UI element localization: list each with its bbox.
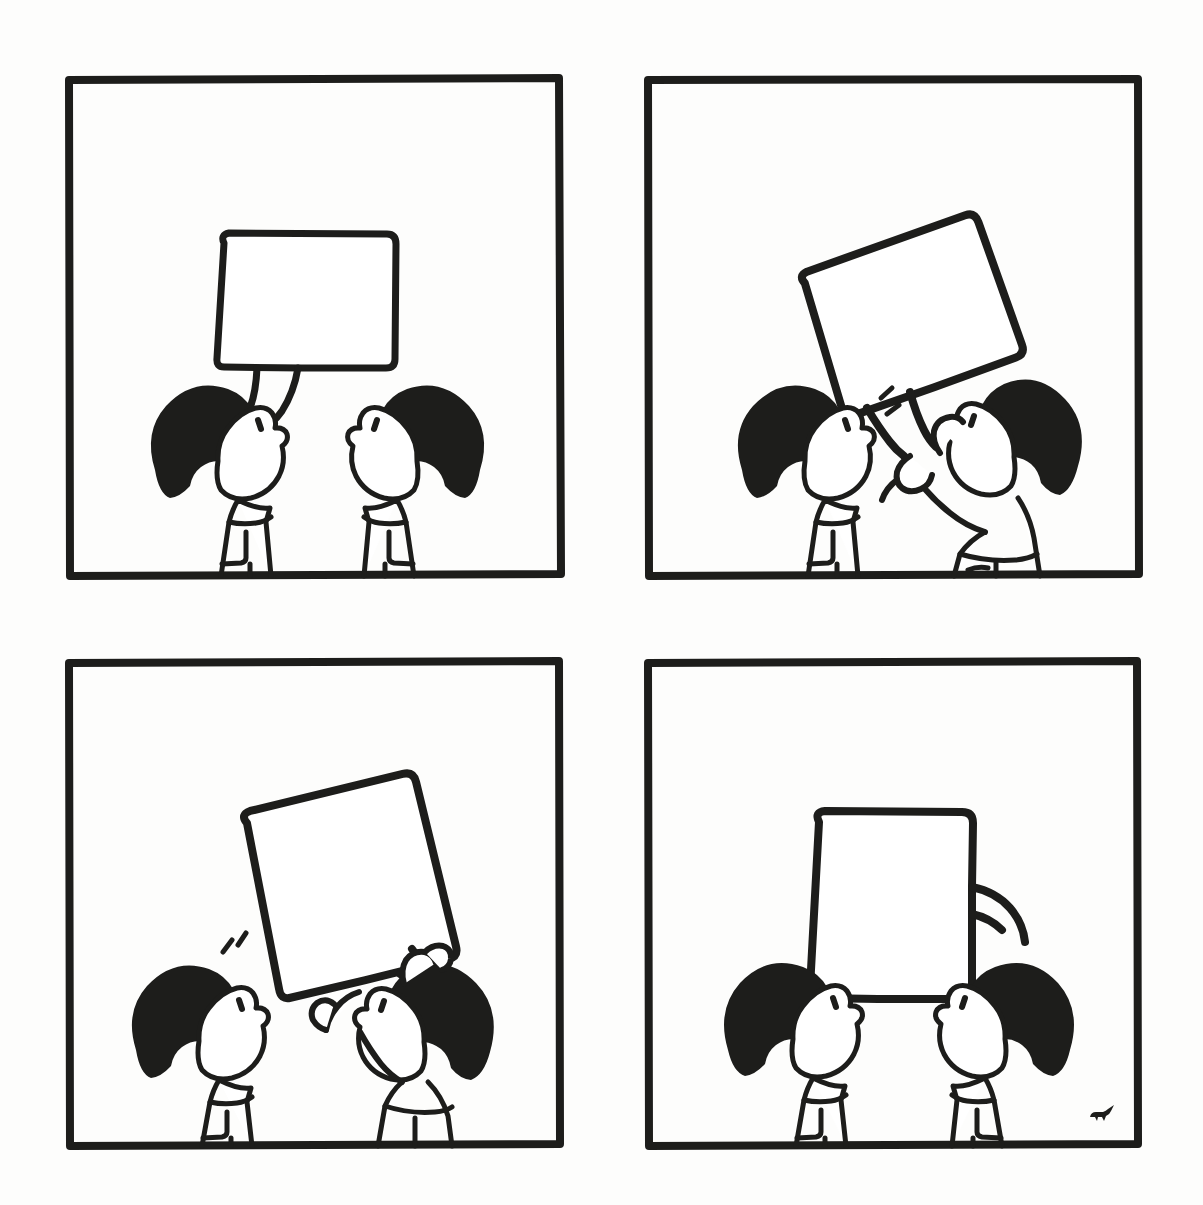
eye-left-2: [845, 420, 848, 429]
eye-left-1: [258, 420, 261, 429]
eye-left-3: [239, 1000, 242, 1009]
panel-grid: Left character speaks; an empty speech b…: [0, 0, 1203, 1205]
eye-right-2: [971, 416, 974, 425]
comic-panel-3: The right character lifts the bubble hig…: [60, 652, 572, 1157]
speech-bubble-tail-inner-1: [250, 368, 257, 408]
comic-page: Four-panel wordless comic: the speech bu…: [0, 0, 1203, 1205]
comic-panel-1: Left character speaks; an empty speech b…: [60, 70, 572, 586]
effect-line-3-a: [223, 940, 232, 952]
left-character-1: [151, 385, 288, 576]
effect-line-3-b: [238, 933, 246, 945]
artist-signature-mark: [1090, 1105, 1114, 1121]
shirt-hem-right-2: [960, 554, 1037, 560]
hand-grip-a-2: [897, 456, 932, 491]
right-character-4: [936, 963, 1074, 1146]
hand-grip-b-2: [882, 480, 897, 500]
comic-panel-4: The bubble now hangs upright above the r…: [638, 652, 1150, 1157]
speech-bubble-4: [810, 811, 973, 999]
speech-bubble-1: [217, 233, 396, 368]
left-character-4: [724, 963, 862, 1146]
comic-panel-2: The right character grabs the speech bub…: [638, 70, 1150, 586]
eye-right-1: [374, 420, 377, 429]
foot-right-2: [968, 567, 988, 570]
speech-bubble-tail-inner-4: [972, 914, 1002, 930]
eye-right-3: [381, 1001, 384, 1010]
eye-right-4: [962, 998, 965, 1007]
right-character-1: [348, 385, 485, 576]
eye-left-4: [833, 998, 836, 1007]
left-character-3: [132, 965, 269, 1146]
effect-lines-3: [223, 933, 246, 952]
